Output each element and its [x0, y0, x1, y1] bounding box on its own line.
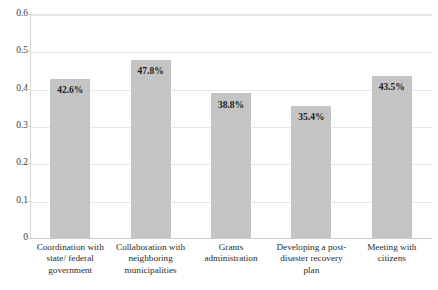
y-axis-tick-mark	[26, 51, 30, 52]
x-axis-category-labels: Coordination withstate/ federalgovernmen…	[30, 242, 432, 290]
category-label-line: Meeting with	[352, 242, 432, 253]
x-axis-category-label: Meeting withcitizens	[352, 242, 432, 265]
y-axis-tick-label: 0.1	[2, 196, 28, 206]
y-axis-labels: 0.60.50.40.30.20.10	[0, 0, 28, 290]
y-axis-tick-label: 0.2	[2, 158, 28, 168]
bar[interactable]	[211, 93, 251, 238]
y-axis-tick-label: 0.6	[2, 9, 28, 19]
bar-value-label: 38.8%	[218, 101, 244, 111]
bar-value-label: 43.5%	[379, 83, 405, 93]
bar-slot: 35.4%	[271, 14, 351, 238]
category-label-line: Developing a post-	[271, 242, 351, 253]
y-axis-tick-label: 0.3	[2, 121, 28, 131]
x-axis-category-label: Developing a post-disaster recoveryplan	[271, 242, 351, 276]
clipped-chart-title	[0, 0, 438, 1]
category-label-line: Grants	[191, 242, 271, 253]
y-axis-tick-mark	[26, 238, 30, 239]
bar-slot: 42.6%	[30, 14, 110, 238]
x-axis-line	[30, 238, 432, 239]
bar[interactable]	[291, 106, 331, 238]
bar-chart: 0.60.50.40.30.20.10 42.6%47.8%38.8%35.4%…	[0, 0, 438, 290]
category-label-line: municipalities	[110, 265, 190, 276]
bar[interactable]	[372, 76, 412, 238]
x-axis-category-label: Coordination withstate/ federalgovernmen…	[30, 242, 110, 276]
bar-slot: 43.5%	[352, 14, 432, 238]
bar-series: 42.6%47.8%38.8%35.4%43.5%	[30, 14, 432, 238]
y-axis-tick-label: 0.4	[2, 84, 28, 94]
category-label-line: neighboring	[110, 253, 190, 264]
y-axis-tick-mark	[26, 126, 30, 127]
category-label-line: disaster recovery	[271, 253, 351, 264]
bar[interactable]	[131, 60, 171, 238]
y-axis-tick-mark	[26, 89, 30, 90]
y-axis-tick-label: 0	[2, 233, 28, 243]
y-axis-tick-mark	[26, 201, 30, 202]
x-axis-category-label: Collaboration withneighboringmunicipalit…	[110, 242, 190, 276]
bar[interactable]	[50, 79, 90, 238]
category-label-line: Coordination with	[30, 242, 110, 253]
category-label-line: administration	[191, 253, 271, 264]
category-label-line: state/ federal	[30, 253, 110, 264]
y-axis-tick-mark	[26, 14, 30, 15]
y-axis-tick-label: 0.5	[2, 46, 28, 56]
category-label-line: government	[30, 265, 110, 276]
x-axis-category-label: Grantsadministration	[191, 242, 271, 265]
category-label-line: plan	[271, 265, 351, 276]
bar-value-label: 35.4%	[298, 113, 324, 123]
bar-slot: 38.8%	[191, 14, 271, 238]
bar-slot: 47.8%	[110, 14, 190, 238]
bar-value-label: 47.8%	[138, 67, 164, 77]
category-label-line: Collaboration with	[110, 242, 190, 253]
y-axis-tick-mark	[26, 163, 30, 164]
bar-value-label: 42.6%	[57, 86, 83, 96]
category-label-line: citizens	[352, 253, 432, 264]
